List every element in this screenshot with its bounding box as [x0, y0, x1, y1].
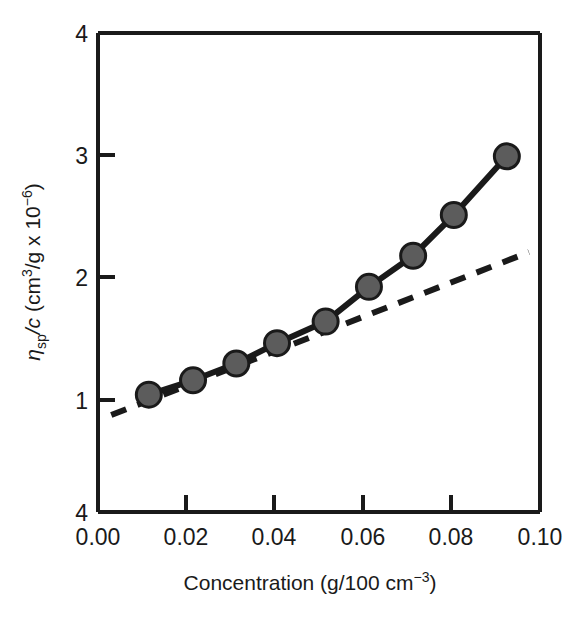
chart-figure: 4 3 2 1 4 0.00 0.02 0.04 0.06 0.08 0.10 … — [0, 0, 586, 622]
data-point — [265, 331, 290, 356]
data-point — [401, 243, 426, 268]
data-point — [313, 309, 338, 334]
x-tick-label-000: 0.00 — [76, 524, 121, 550]
y-tick-label-2: 2 — [75, 265, 88, 291]
x-axis-title-sup: −3 — [414, 569, 430, 585]
x-tick-label-002: 0.02 — [164, 524, 209, 550]
x-axis-title-close: ) — [429, 571, 436, 594]
x-axis-title-main: Concentration (g/100 cm — [184, 571, 414, 594]
data-point — [494, 144, 519, 169]
y-axis-title-unit-close: ) — [21, 183, 44, 190]
y-axis-title-unit-mid: /g x 10 — [21, 206, 44, 269]
x-tick-label-004: 0.04 — [252, 524, 297, 550]
x-axis-title: Concentration (g/100 cm−3) — [184, 569, 437, 594]
y-axis-title-eta-sub: sp — [33, 334, 49, 349]
x-tick-label-010: 0.10 — [518, 524, 563, 550]
y-tick-label-top: 4 — [75, 21, 88, 47]
data-point — [224, 351, 249, 376]
y-axis-title-unit-sup2: −6 — [19, 190, 35, 206]
y-axis-title-unit-open: (cm — [21, 277, 44, 318]
x-tick-label-006: 0.06 — [341, 524, 386, 550]
y-tick-label-1: 1 — [75, 388, 88, 414]
y-tick-label-bottom: 4 — [75, 500, 88, 526]
x-tick-label-008: 0.08 — [429, 524, 474, 550]
y-tick-label-3: 3 — [75, 143, 88, 169]
data-point — [136, 382, 161, 407]
chart-svg: 4 3 2 1 4 0.00 0.02 0.04 0.06 0.08 0.10 … — [0, 0, 586, 622]
data-point — [181, 368, 206, 393]
y-axis-title-unit-sup1: 3 — [19, 269, 35, 277]
y-axis-title-slash-c: /c — [21, 317, 44, 336]
y-axis-title-eta: η — [21, 349, 44, 361]
data-point — [356, 274, 381, 299]
data-point — [441, 203, 466, 228]
